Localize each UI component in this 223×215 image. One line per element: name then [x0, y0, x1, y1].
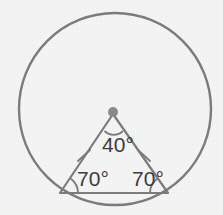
apex-vertex-dot — [108, 107, 118, 117]
base-angle-right-label: 70° — [132, 167, 164, 190]
geometry-figure: 40° 70° 70° — [0, 0, 223, 215]
apex-angle-label: 40° — [102, 133, 134, 156]
base-angle-left-label: 70° — [77, 167, 109, 190]
figure-canvas: 40° 70° 70° — [0, 0, 223, 215]
